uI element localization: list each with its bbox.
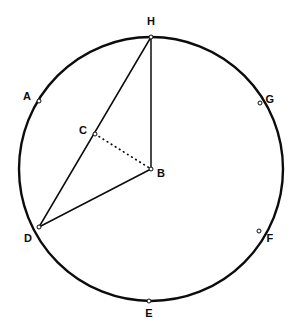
vertex-marker-H xyxy=(149,35,153,39)
vertex-marker-B xyxy=(149,167,153,171)
vertex-marker-C xyxy=(93,132,97,136)
segment-CB xyxy=(95,134,151,169)
point-label-D: D xyxy=(24,233,32,244)
point-label-B: B xyxy=(157,168,165,179)
point-label-G: G xyxy=(266,94,275,105)
point-label-C: C xyxy=(79,125,87,136)
vertex-marker-D xyxy=(37,225,41,229)
vertex-marker-F xyxy=(257,229,261,233)
point-label-A: A xyxy=(23,91,31,102)
geometry-figure: H A G C B D F E xyxy=(0,0,295,333)
vertex-marker-E xyxy=(147,299,151,303)
point-label-H: H xyxy=(147,16,155,27)
point-label-F: F xyxy=(267,233,274,244)
point-label-E: E xyxy=(145,308,153,319)
geometry-canvas xyxy=(0,0,295,333)
vertex-marker-A xyxy=(37,99,41,103)
vertex-marker-G xyxy=(258,101,262,105)
